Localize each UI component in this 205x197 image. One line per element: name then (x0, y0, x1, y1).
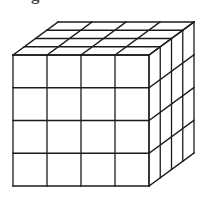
figure-canvas: g (0, 0, 205, 197)
cube-diagram (0, 0, 205, 197)
